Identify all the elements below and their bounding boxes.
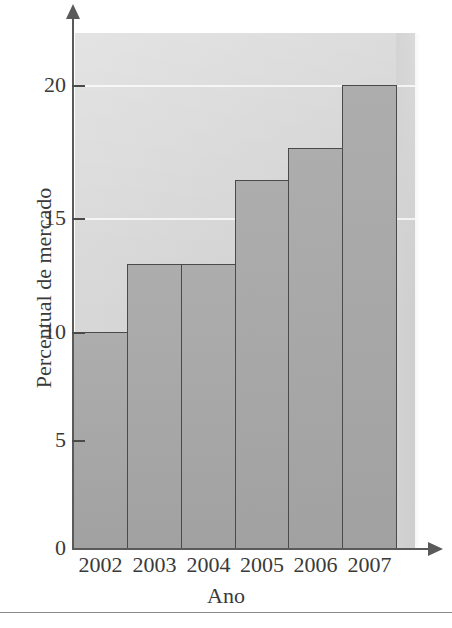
x-tick-label-2004: 2004 bbox=[181, 552, 236, 578]
y-tick-mark-10 bbox=[72, 332, 85, 334]
y-axis-arrow-icon bbox=[66, 4, 80, 19]
y-tick-label-0-wrap: 0 bbox=[0, 537, 66, 559]
x-tick-label-2002: 2002 bbox=[73, 552, 128, 578]
plot-area-right-fade bbox=[396, 33, 420, 548]
y-tick-mark-15 bbox=[72, 218, 85, 220]
y-tick-label-5: 5 bbox=[24, 429, 66, 451]
bar-2004 bbox=[181, 264, 236, 550]
x-tick-label-2003: 2003 bbox=[127, 552, 182, 578]
y-tick-mark-5 bbox=[72, 440, 85, 442]
y-tick-label-20-wrap: 20 bbox=[0, 74, 66, 96]
x-tick-label-2005: 2005 bbox=[235, 552, 289, 578]
x-axis-title: Ano bbox=[0, 583, 452, 609]
x-axis-arrow-icon bbox=[428, 542, 443, 556]
y-tick-label-5-wrap: 5 bbox=[0, 429, 66, 451]
y-axis-title: Percentual de mercado bbox=[32, 148, 56, 428]
bar-2007 bbox=[342, 85, 397, 550]
bar-2006 bbox=[288, 148, 343, 550]
x-tick-label-2007: 2007 bbox=[342, 552, 397, 578]
bar-2005 bbox=[235, 180, 289, 550]
x-axis-line bbox=[72, 548, 430, 550]
x-tick-label-2006: 2006 bbox=[288, 552, 343, 578]
y-axis-line bbox=[72, 16, 74, 550]
bar-2003 bbox=[127, 264, 182, 550]
y-tick-mark-20 bbox=[72, 85, 85, 87]
y-tick-label-20: 20 bbox=[24, 74, 66, 96]
y-tick-label-0: 0 bbox=[24, 537, 66, 559]
bottom-divider bbox=[0, 612, 452, 613]
bar-chart-figure: 20 15 10 5 0 2002 2003 2004 2005 2006 20… bbox=[0, 0, 452, 628]
